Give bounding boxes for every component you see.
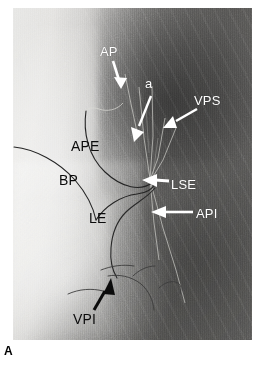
arrow-lse (142, 174, 169, 187)
annotation-curve-bronchus (111, 188, 155, 278)
panel-letter: A (4, 344, 13, 358)
figure-panel: AP a VPS LSE API APE BP LE VPI A (0, 0, 264, 367)
label-a: a (145, 77, 152, 90)
label-ape: APE (71, 139, 100, 153)
fissure-lines (68, 265, 181, 310)
label-le: LE (89, 211, 107, 225)
arrow-vpi (94, 278, 115, 310)
label-vps: VPS (194, 94, 221, 107)
label-vpi: VPI (73, 312, 96, 326)
annotation-curve-lower (14, 147, 155, 220)
chest-radiograph-image: AP a VPS LSE API APE BP LE VPI (13, 8, 252, 340)
label-api: API (196, 207, 218, 220)
label-lse: LSE (171, 178, 196, 191)
label-ap: AP (100, 45, 118, 58)
pale-squiggle (83, 103, 123, 112)
annotation-overlay (13, 8, 252, 340)
label-bp: BP (59, 173, 78, 187)
arrow-vps (163, 109, 197, 128)
